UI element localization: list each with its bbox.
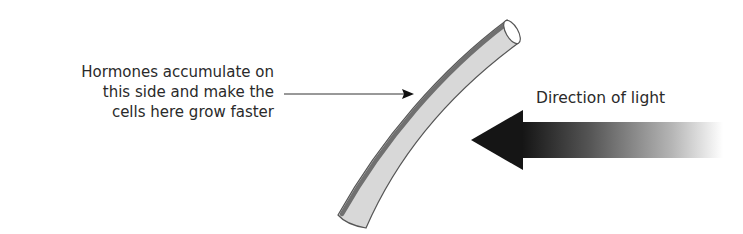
plant-stem [338, 18, 524, 228]
pointer-arrow [284, 89, 414, 99]
phototropism-diagram [0, 0, 743, 234]
light-direction-arrow [471, 110, 723, 170]
